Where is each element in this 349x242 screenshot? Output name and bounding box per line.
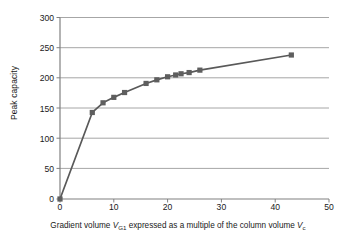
data-point <box>165 74 170 79</box>
data-point <box>111 95 116 100</box>
data-point <box>122 90 127 95</box>
data-point <box>154 77 159 82</box>
gridlines <box>60 18 329 169</box>
x-tick-label: 0 <box>48 202 72 212</box>
data-point <box>178 71 183 76</box>
data-markers <box>57 52 294 201</box>
x-axis-title-subscript-c: c <box>303 224 306 231</box>
data-point <box>90 110 95 115</box>
x-tick-label: 50 <box>317 202 341 212</box>
x-tick-label: 40 <box>263 202 287 212</box>
data-point <box>143 81 148 86</box>
x-tick-label: 10 <box>102 202 126 212</box>
x-axis-title-symbol-vc: V <box>297 221 302 230</box>
data-point <box>289 52 294 57</box>
data-point <box>173 72 178 77</box>
data-point <box>187 70 192 75</box>
x-tick-label: 30 <box>209 202 233 212</box>
x-tick-label: 20 <box>156 202 180 212</box>
x-axis-title: Gradient volume VG1 expressed as a multi… <box>18 221 338 230</box>
data-point <box>57 196 62 201</box>
chart-figure: Peak capacity 300 250 200 150 100 50 0 <box>0 0 349 242</box>
data-point <box>197 68 202 73</box>
x-axis-title-subscript-g1: G1 <box>118 224 126 231</box>
x-axis-title-part1: Gradient volume <box>50 221 112 230</box>
data-point <box>100 100 105 105</box>
x-axis-title-part2: expressed as a multiple of the column vo… <box>126 221 297 230</box>
